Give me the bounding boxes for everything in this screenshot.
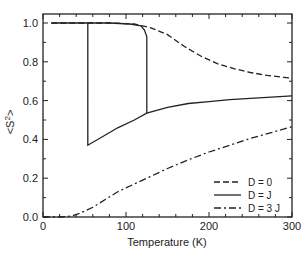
y-tick-label: 0.2 (23, 172, 38, 184)
y-tick-label: 0.8 (23, 56, 38, 68)
y-tick-label: 0.0 (23, 211, 38, 223)
chart: 01002003000.00.20.40.60.81.0 Temperature… (0, 0, 306, 253)
legend-label: D = 3 J (248, 203, 280, 214)
series-d-j-lower (88, 23, 292, 145)
legend: D = 0D = JD = 3 J (214, 177, 280, 214)
y-tick-label: 0.4 (23, 133, 38, 145)
legend-label: D = J (248, 190, 272, 201)
y-axis-title: <S2> (3, 110, 16, 135)
x-tick-label: 100 (117, 220, 135, 232)
y-tick-label: 1.0 (23, 17, 38, 29)
x-tick-label: 200 (200, 220, 218, 232)
x-axis-title: Temperature (K) (127, 236, 206, 248)
legend-label: D = 0 (248, 177, 273, 188)
series-d-j-upper (51, 23, 147, 113)
x-tick-label: 0 (40, 220, 46, 232)
y-tick-label: 0.6 (23, 95, 38, 107)
x-tick-label: 300 (283, 220, 301, 232)
